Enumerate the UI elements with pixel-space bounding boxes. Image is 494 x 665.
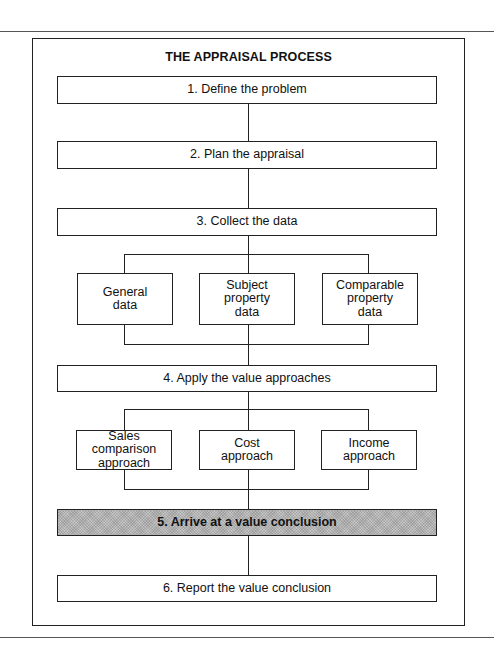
sales-comparison-approach-box: Sales comparison approach [76,430,172,470]
step-label: 4. Apply the value approaches [163,372,330,386]
bracket-bottom [124,489,369,490]
box-label: Comparable property data [336,279,404,320]
bracket-top [124,254,369,255]
step-label: 5. Arrive at a value conclusion [157,516,336,530]
step-label: 6. Report the value conclusion [163,582,331,596]
step-label: 2. Plan the appraisal [190,148,304,162]
step-define-problem: 1. Define the problem [57,76,437,104]
box-label: Sales comparison approach [77,430,171,471]
connector [124,254,125,273]
connector [124,409,125,430]
box-label: Cost approach [221,437,273,464]
connector [368,325,369,344]
step-label: 3. Collect the data [197,215,298,229]
general-data-box: General data [77,273,173,325]
step-label: 1. Define the problem [187,83,307,97]
diagram-title: THE APPRAISAL PROCESS [32,50,465,64]
connector [248,104,249,141]
step-collect-data: 3. Collect the data [57,208,437,236]
bottom-rule [0,637,494,638]
connector [124,470,125,489]
connector [248,169,249,208]
connector [124,325,125,344]
subject-property-data-box: Subject property data [199,273,295,325]
box-label: Subject property data [224,279,270,320]
bracket-top [124,409,369,410]
top-rule [0,31,494,32]
box-label: General data [103,286,147,313]
bracket-bottom [124,344,369,345]
connector [368,409,369,430]
cost-approach-box: Cost approach [199,430,295,470]
step-apply-approaches: 4. Apply the value approaches [57,365,437,392]
comparable-property-data-box: Comparable property data [322,273,418,325]
step-plan-appraisal: 2. Plan the appraisal [57,141,437,169]
connector [248,392,249,430]
connector [368,254,369,273]
income-approach-box: Income approach [321,430,417,470]
step-report-conclusion: 6. Report the value conclusion [57,575,437,602]
step-arrive-conclusion: 5. Arrive at a value conclusion [57,509,437,536]
connector [248,325,249,365]
connector [248,536,249,575]
connector [368,470,369,489]
box-label: Income approach [343,437,395,464]
